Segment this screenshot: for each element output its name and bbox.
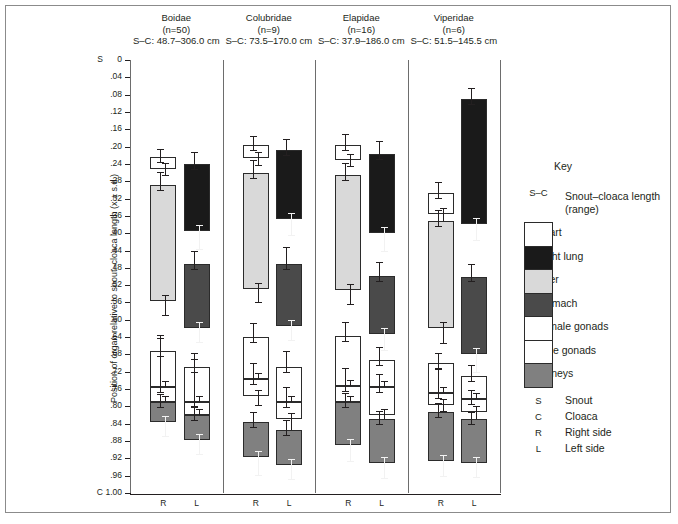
y-tick-label: .60 — [110, 315, 122, 324]
y-tick-label: .40 — [110, 228, 122, 237]
error-bar-start — [194, 406, 195, 421]
error-bar-end — [476, 457, 477, 479]
side-label-l: L — [464, 498, 484, 508]
segment-heart — [428, 193, 454, 214]
legend-letter: S — [524, 394, 553, 408]
side-label-r: R — [153, 498, 173, 508]
side-label-r: R — [246, 498, 266, 508]
segment-liver — [335, 175, 361, 290]
segment-male-gonads — [276, 402, 302, 419]
group-name: Viperidae — [388, 12, 521, 24]
error-bar-start — [379, 262, 380, 282]
bar-column-boidae-r — [150, 60, 176, 493]
legend-letter-row: SSnout — [524, 394, 674, 408]
y-tick-label: .92 — [110, 453, 122, 462]
error-bar-start — [345, 393, 346, 408]
y-tick-label: .04 — [110, 72, 122, 81]
legend-letter-entries: SSnoutCCloacaRRight sideLLeft side — [524, 394, 674, 456]
segment-kidneys — [184, 415, 210, 440]
legend-row: Liver — [524, 269, 674, 286]
error-bar-start — [253, 412, 254, 428]
error-bar-end — [350, 154, 351, 168]
error-bar-end — [258, 451, 259, 476]
error-bar-start — [286, 387, 287, 408]
error-bar-start — [471, 88, 472, 105]
bar-column-elapidae-r — [335, 60, 361, 493]
bar-column-colubridae-r — [243, 60, 269, 493]
legend-letter-label: Left side — [565, 442, 605, 455]
bar-column-viperidae-l — [461, 60, 487, 493]
y-tick-label: .96 — [110, 471, 122, 480]
legend-label: Snout–cloaca length (range) — [565, 186, 674, 215]
segment-heart — [335, 145, 361, 160]
y-tick-label: .56 — [110, 297, 122, 306]
segment-kidneys — [150, 402, 176, 422]
error-bar-end — [165, 416, 166, 437]
group-header-viperidae: Viperidae(n=6)S–C: 51.5–145.5 cm — [388, 12, 521, 47]
kidneys-swatch — [524, 363, 553, 388]
legend-row: Kidneys — [524, 363, 674, 380]
y-tick-label: 1.00 — [105, 488, 122, 497]
error-bar-start — [160, 149, 161, 163]
legend-letter-label: Snout — [565, 394, 592, 407]
legend-letter-row: CCloaca — [524, 410, 674, 424]
error-bar-end — [291, 320, 292, 341]
x-axis — [130, 494, 501, 495]
side-label-l: L — [187, 498, 207, 508]
error-bar-end — [476, 218, 477, 241]
plot-area: 0S.04.08.12.16.20.24.28.32.36.40.44.48.5… — [130, 60, 500, 493]
segment-stomach — [184, 264, 210, 328]
legend-letter: L — [524, 442, 553, 456]
error-bar-start — [471, 390, 472, 406]
y-tick-label: .44 — [110, 246, 122, 255]
error-bar-start — [345, 368, 346, 391]
legend-row: Heart — [524, 222, 674, 239]
error-bar-start — [345, 322, 346, 343]
error-bar-start — [471, 365, 472, 382]
error-bar-start — [253, 136, 254, 151]
error-bar-start — [160, 172, 161, 191]
y-tick-label: .72 — [110, 367, 122, 376]
y-tick-label: .20 — [110, 142, 122, 151]
y-tick-label: .52 — [110, 280, 122, 289]
y-tick-label: .28 — [110, 176, 122, 185]
segment-female-gonads — [461, 376, 487, 399]
segment-liver — [150, 185, 176, 301]
legend-row: Male gonads — [524, 340, 674, 357]
error-bar-end — [443, 455, 444, 477]
segment-right-lung — [461, 99, 487, 224]
error-bar-start — [160, 394, 161, 408]
error-bar-start — [194, 251, 195, 270]
error-bar-end — [199, 322, 200, 344]
error-bar-start — [471, 412, 472, 426]
error-bar-end — [258, 390, 259, 406]
legend-row: S–CSnout–cloaca length (range) — [524, 186, 674, 215]
segment-kidneys — [428, 412, 454, 461]
group-sample-size: (n=6) — [388, 24, 521, 36]
error-bar-start — [379, 374, 380, 393]
legend-row: Stomach — [524, 293, 674, 310]
error-bar-start — [345, 134, 346, 150]
error-bar-end — [384, 328, 385, 351]
error-bar-end — [350, 284, 351, 305]
error-bar-end — [384, 227, 385, 252]
error-bar-start — [160, 338, 161, 393]
y-tick-label: .24 — [110, 159, 122, 168]
error-bar-start — [286, 351, 287, 373]
liver-swatch — [524, 269, 553, 294]
snout-marker: S — [97, 55, 103, 64]
error-bar-end — [291, 413, 292, 431]
error-bar-end — [476, 348, 477, 372]
legend-letter-label: Right side — [565, 426, 612, 439]
y-tick-label: .84 — [110, 419, 122, 428]
group-separator — [130, 60, 131, 493]
group-separator — [500, 60, 501, 493]
side-label-r: R — [338, 498, 358, 508]
legend-letter-label: Cloaca — [565, 410, 598, 423]
error-bar-end — [165, 163, 166, 176]
error-bar-start — [379, 347, 380, 366]
side-label-r: R — [431, 498, 451, 508]
legend-row: Right lung — [524, 246, 674, 263]
group-separator — [408, 60, 409, 493]
error-bar-start — [438, 369, 439, 398]
